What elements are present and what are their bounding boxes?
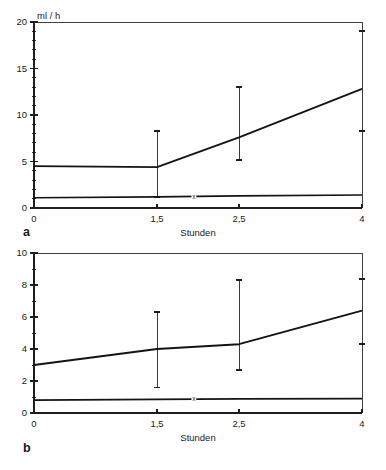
y-tick-label: 8 [22, 279, 27, 290]
x-tick-label: 1,5 [150, 418, 163, 429]
x-tick-label: 2,5 [232, 418, 245, 429]
baseline-series-line [34, 399, 362, 401]
x-tick-label: 1,5 [150, 213, 163, 224]
figure-container: 0510152001,52,54Stundenml / hxa 02468100… [0, 0, 386, 470]
y-unit-label: ml / h [37, 10, 60, 21]
baseline-series-line [34, 195, 362, 198]
y-tick-label: 15 [16, 63, 27, 74]
x-tick-label: 4 [359, 213, 364, 224]
y-tick-label: 0 [22, 202, 27, 213]
y-tick-label: 4 [22, 343, 27, 354]
chart-panel-a: 0510152001,52,54Stundenml / hxa [0, 0, 386, 240]
chart-panel-b: 024681001,52,54Stundenxb [0, 240, 386, 470]
y-tick-label: 20 [16, 16, 27, 27]
panel-letter-b: b [23, 441, 31, 455]
y-tick-label: 5 [22, 156, 27, 167]
y-tick-label: 10 [16, 109, 27, 120]
y-tick-label: 2 [22, 375, 27, 386]
y-tick-label: 10 [16, 247, 27, 258]
y-tick-label: 0 [22, 407, 27, 418]
x-axis-title: Stunden [180, 227, 215, 238]
chart-a-plot-area: 0510152001,52,54Stundenml / hxa [16, 10, 365, 239]
x-axis-title: Stunden [180, 432, 215, 443]
chart-b-plot-area: 024681001,52,54Stundenxb [16, 247, 365, 455]
x-tick-label: 4 [359, 418, 364, 429]
upper-series-line [34, 89, 362, 167]
x-tick-label: 0 [31, 418, 36, 429]
panel-letter-a: a [23, 225, 31, 239]
x-tick-label: 0 [31, 213, 36, 224]
upper-series-line [34, 311, 362, 365]
chart-a-svg: 0510152001,52,54Stundenml / hxa [0, 0, 386, 240]
x-tick-label: 2,5 [232, 213, 245, 224]
chart-b-svg: 024681001,52,54Stundenxb [0, 240, 386, 470]
y-tick-label: 6 [22, 311, 27, 322]
